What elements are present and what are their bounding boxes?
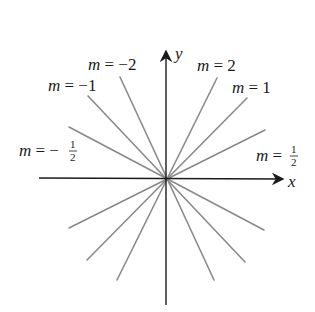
svg-text:1: 1 — [70, 138, 76, 150]
fraction-half: 1 2 — [290, 143, 298, 168]
x-axis-label: x — [287, 172, 296, 191]
label-m-neg2: m = −2 — [88, 55, 136, 74]
label-m-neghalf: m = − — [19, 141, 59, 160]
label-m-1: m = 1 — [232, 78, 271, 97]
label-m-neg1: m = −1 — [48, 76, 96, 95]
label-m-2: m = 2 — [197, 56, 236, 75]
y-axis-label: y — [173, 44, 183, 63]
slope-diagram: x y m = −2 m = −1 m = − 1 2 m = 2 m = 1 … — [0, 0, 315, 312]
label-m-half: m = — [256, 146, 282, 165]
x-axis — [39, 178, 282, 179]
fraction-neg-half: 1 2 — [69, 138, 77, 163]
svg-text:1: 1 — [291, 143, 297, 155]
svg-text:2: 2 — [70, 151, 76, 163]
svg-text:2: 2 — [291, 156, 297, 168]
